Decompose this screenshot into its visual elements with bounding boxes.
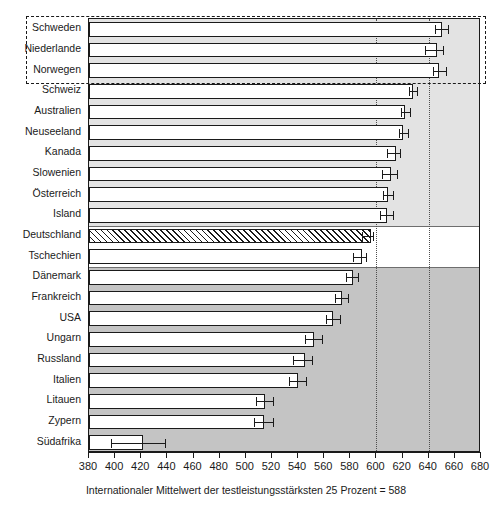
x-tick-440 — [166, 452, 167, 458]
x-tick-500 — [245, 452, 246, 458]
error-bar-cap-high — [408, 129, 409, 138]
bar-row — [89, 291, 479, 306]
bar-ungarn[interactable] — [89, 332, 314, 347]
x-axis-caption: Internationaler Mittelwert der testleist… — [0, 484, 492, 496]
bar-row — [89, 125, 479, 140]
bar-australien[interactable] — [89, 105, 405, 120]
y-axis-label-slowenien: Slowenien — [33, 167, 81, 178]
y-axis-label-russland: Russland — [37, 353, 81, 364]
error-bar-cap-high — [306, 377, 307, 386]
error-bar-cap-low — [382, 170, 383, 179]
x-tick-label-620: 620 — [392, 460, 410, 472]
error-bar-cap-low — [383, 191, 384, 200]
error-bar-cap-low — [256, 397, 257, 406]
error-bar — [399, 133, 408, 134]
bar-island[interactable] — [89, 208, 387, 223]
bar-row — [89, 435, 479, 450]
error-bar — [401, 112, 410, 113]
bar-dnemark[interactable] — [89, 270, 353, 285]
error-bar — [383, 195, 393, 196]
bar-schweiz[interactable] — [89, 84, 413, 99]
error-bar — [305, 339, 322, 340]
bar-row — [89, 332, 479, 347]
bar-zypern[interactable] — [89, 415, 264, 430]
error-bar-cap-high — [348, 294, 349, 303]
error-bar — [409, 91, 417, 92]
error-bar-cap-high — [358, 273, 359, 282]
bar-deutschland[interactable] — [89, 229, 371, 244]
error-bar-cap-low — [380, 211, 381, 220]
error-bar-cap-low — [387, 149, 388, 158]
bar-row — [89, 415, 479, 430]
error-bar-cap-high — [312, 356, 313, 365]
x-tick-label-540: 540 — [288, 460, 306, 472]
bar-row — [89, 63, 479, 78]
x-tick-label-660: 660 — [445, 460, 463, 472]
error-bar — [380, 215, 393, 216]
error-bar-cap-high — [340, 315, 341, 324]
error-bar-cap-high — [366, 253, 367, 262]
bar-litauen[interactable] — [89, 394, 265, 409]
error-bar — [362, 236, 372, 237]
bar-row — [89, 208, 479, 223]
bar-tschechien[interactable] — [89, 249, 362, 264]
x-tick-380 — [88, 452, 89, 458]
plot-area — [88, 18, 480, 452]
error-bar — [335, 298, 348, 299]
bar-sterreich[interactable] — [89, 187, 388, 202]
bar-row — [89, 84, 479, 99]
y-axis-label-zypern: Zypern — [48, 415, 81, 426]
y-axis-label-island: Island — [53, 208, 81, 219]
x-tick-460 — [193, 452, 194, 458]
bar-frankreich[interactable] — [89, 291, 342, 306]
error-bar-cap-high — [443, 46, 444, 55]
bar-norwegen[interactable] — [89, 63, 439, 78]
x-tick-label-400: 400 — [105, 460, 123, 472]
x-tick-400 — [114, 452, 115, 458]
bar-schweden[interactable] — [89, 22, 442, 37]
bar-row — [89, 167, 479, 182]
bar-italien[interactable] — [89, 373, 298, 388]
bar-row — [89, 146, 479, 161]
y-axis-label-schweiz: Schweiz — [42, 84, 81, 95]
bar-row — [89, 43, 479, 58]
x-axis-line — [88, 452, 480, 453]
error-bar-cap-high — [397, 170, 398, 179]
x-tick-620 — [402, 452, 403, 458]
error-bar — [382, 174, 398, 175]
y-axis-label-schweden: Schweden — [32, 22, 81, 33]
error-bar — [289, 381, 306, 382]
error-bar-cap-low — [435, 25, 436, 34]
error-bar — [346, 277, 358, 278]
error-bar-cap-low — [254, 418, 255, 427]
bar-row — [89, 229, 479, 244]
bar-neuseeland[interactable] — [89, 125, 403, 140]
figure-root: SchwedenNiederlandeNorwegenSchweizAustra… — [0, 0, 492, 510]
x-tick-420 — [140, 452, 141, 458]
x-tick-label-580: 580 — [340, 460, 358, 472]
error-bar-cap-low — [346, 273, 347, 282]
error-bar-cap-low — [401, 108, 402, 117]
x-tick-600 — [375, 452, 376, 458]
error-bar-cap-low — [362, 232, 363, 241]
bar-row — [89, 105, 479, 120]
error-bar-cap-high — [410, 108, 411, 117]
figure-title — [0, 0, 492, 8]
bar-kanada[interactable] — [89, 146, 396, 161]
y-axis-label-sterreich: Österreich — [33, 188, 81, 199]
y-axis-label-deutschland: Deutschland — [23, 229, 81, 240]
y-axis-label-ungarn: Ungarn — [47, 332, 81, 343]
error-bar — [433, 71, 446, 72]
bar-usa[interactable] — [89, 311, 333, 326]
x-tick-label-440: 440 — [157, 460, 175, 472]
bar-niederlande[interactable] — [89, 43, 437, 58]
x-tick-660 — [454, 452, 455, 458]
x-tick-680 — [480, 452, 481, 458]
bar-row — [89, 249, 479, 264]
bar-slowenien[interactable] — [89, 167, 391, 182]
bar-russland[interactable] — [89, 353, 305, 368]
error-bar-cap-low — [293, 356, 294, 365]
error-bar-cap-high — [273, 397, 274, 406]
x-tick-640 — [428, 452, 429, 458]
y-axis-label-kanada: Kanada — [45, 146, 81, 157]
